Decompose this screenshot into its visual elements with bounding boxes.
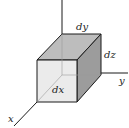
label-x-axis: x <box>8 113 14 124</box>
x-axis <box>14 102 37 126</box>
volume-element-diagram: dy dz dx y x <box>0 0 129 128</box>
label-y-axis: y <box>118 75 125 86</box>
label-dy: dy <box>76 21 88 32</box>
label-dz: dz <box>104 49 116 60</box>
label-dx: dx <box>52 84 64 95</box>
